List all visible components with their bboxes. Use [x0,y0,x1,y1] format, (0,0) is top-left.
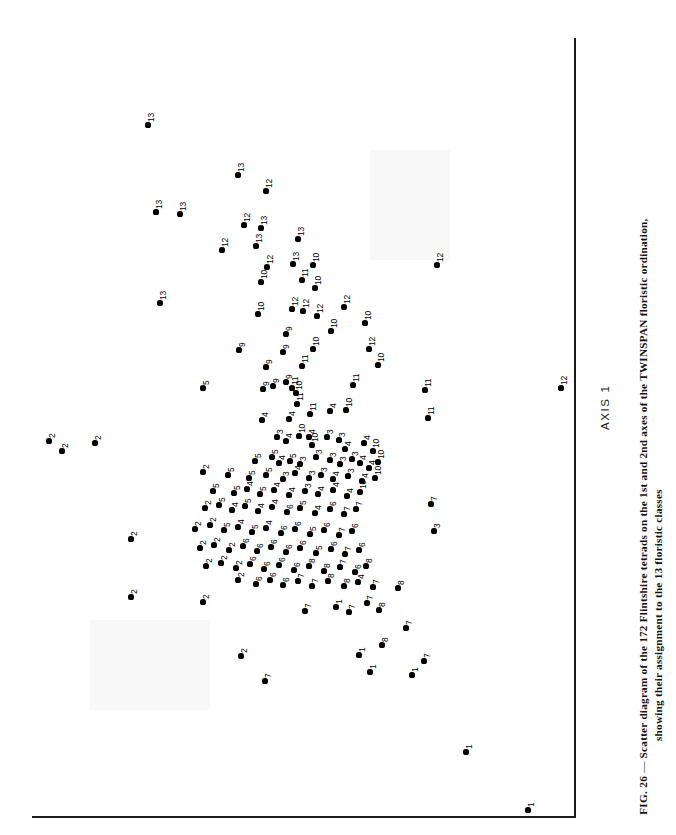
scatter-point-marker [366,346,371,351]
scatter-point-label: 9 [282,345,291,349]
scatter-point-marker [525,807,530,812]
scatter-point-marker [306,475,311,480]
scatter-point-marker [333,604,338,609]
scatter-point-label: 4 [285,434,294,438]
scatter-point-marker [313,550,318,555]
scatter-point-marker [276,562,281,567]
scatter-point-marker [280,349,285,354]
scatter-point-label: 10 [364,311,373,320]
scatter-point-label: 12 [265,179,274,188]
scatter-point-marker [327,506,332,511]
scatter-point-marker [283,549,288,554]
scatter-point-label: 8 [381,638,390,642]
scatter-point-marker [235,577,240,582]
scatter-point-label: 13 [260,216,269,225]
scatter-point-label: 7 [338,528,347,532]
scatter-point-label: 12 [343,295,352,304]
scatter-point-marker [328,328,333,333]
scatter-point-label: 11 [296,393,305,401]
scatter-point-label: 13 [297,227,306,236]
scatter-point-label: 10 [257,302,266,311]
axis-1-label: AXIS 1 [599,385,611,430]
scatter-point-label: 13 [292,252,301,261]
scatter-point-label: 1 [358,648,367,652]
scatter-point-label: 6 [285,545,294,549]
scatter-point-label: 4 [361,474,370,478]
scatter-point-label: 11 [309,403,318,411]
scatter-point-label: 3 [329,453,338,457]
scatter-point-marker [192,526,197,531]
scatter-point-label: 9 [238,343,247,347]
scatter-point-label: 10 [372,439,381,448]
scatter-point-label: 3 [326,430,335,434]
scatter-point-marker [241,222,246,227]
scatter-point-label: 8 [397,581,406,585]
scatter-point-marker [300,308,305,313]
scatter-point-label: 4 [273,483,282,487]
scatter-point-label: 2 [61,444,70,448]
scatter-point-marker [344,493,349,498]
scatter-point-label: 6 [282,578,291,582]
scatter-point-label: 10 [314,276,323,285]
scatter-point-marker [370,448,375,453]
scatter-point-label: 4 [344,442,353,446]
scatter-point-marker [328,546,333,551]
scatter-point-marker [246,475,251,480]
scatter-point-label: 13 [237,163,246,172]
scatter-point-marker [349,528,354,533]
scatter-point-label: 13 [147,113,156,122]
scatter-point-marker [321,568,326,573]
scatter-point-label: 6 [330,542,339,546]
scatter-point-marker [349,456,354,461]
scatter-point-label: 8 [308,559,317,563]
scatter-point-marker [225,472,230,477]
scatter-point-marker [289,306,294,311]
scatter-point-marker [233,565,238,570]
scatter-point-label: 3 [282,472,291,476]
scatter-point-label: 6 [255,577,264,581]
scatter-point-marker [336,532,341,537]
scatter-point-label: 2 [130,532,139,536]
scatter-point-label: 2 [94,436,103,440]
scatter-point-marker [231,490,236,495]
scatter-point-label: 4 [288,488,297,492]
scatter-point-label: 5 [265,468,274,472]
scatter-point-label: 3 [433,524,442,528]
scatter-point-label: 5 [218,498,227,502]
scatter-point-label: 2 [204,501,213,505]
scatter-point-marker [403,625,408,630]
scatter-point-label: 5 [212,484,221,488]
scatter-point-marker [395,585,400,590]
scatter-point-label: 2 [130,590,139,594]
scatter-point-marker [271,487,276,492]
scatter-point-label: 4 [294,466,303,470]
scatter-point-marker [157,300,162,305]
scatter-point-marker [307,411,312,416]
scatter-point-label: 6 [263,562,272,566]
scatter-point-marker [364,600,369,605]
scatter-point-label: 2 [209,518,218,522]
scatter-point-label: 10 [295,381,304,390]
scatter-point-marker [218,560,223,565]
scatter-point-marker [242,503,247,508]
scatter-point-label: 12 [243,213,252,222]
caption-text-line-1: Scatter diagram of the 172 Flintshire te… [637,218,649,758]
scatter-point-marker [327,408,332,413]
scatter-point-label: 4 [314,506,323,510]
scatter-point-marker [269,504,274,509]
scatter-point-label: 12 [266,255,275,264]
scatter-point-label: 2 [213,538,222,542]
scatter-point-marker [434,262,439,267]
scatter-point-marker [312,510,317,515]
scatter-point-marker [235,172,240,177]
scatter-point-marker [362,320,367,325]
scatter-point-marker [252,458,257,463]
scatter-point-label: 6 [354,565,363,569]
scatter-point-label: 4 [257,504,266,508]
scatter-point-label: 4 [237,520,246,524]
scatter-point-label: 5 [244,499,253,503]
scatter-point-marker [297,505,302,510]
scatter-point-label: 2 [202,465,211,469]
scatter-point-label: 6 [242,539,251,543]
scatter-point-label: 9 [272,379,281,383]
